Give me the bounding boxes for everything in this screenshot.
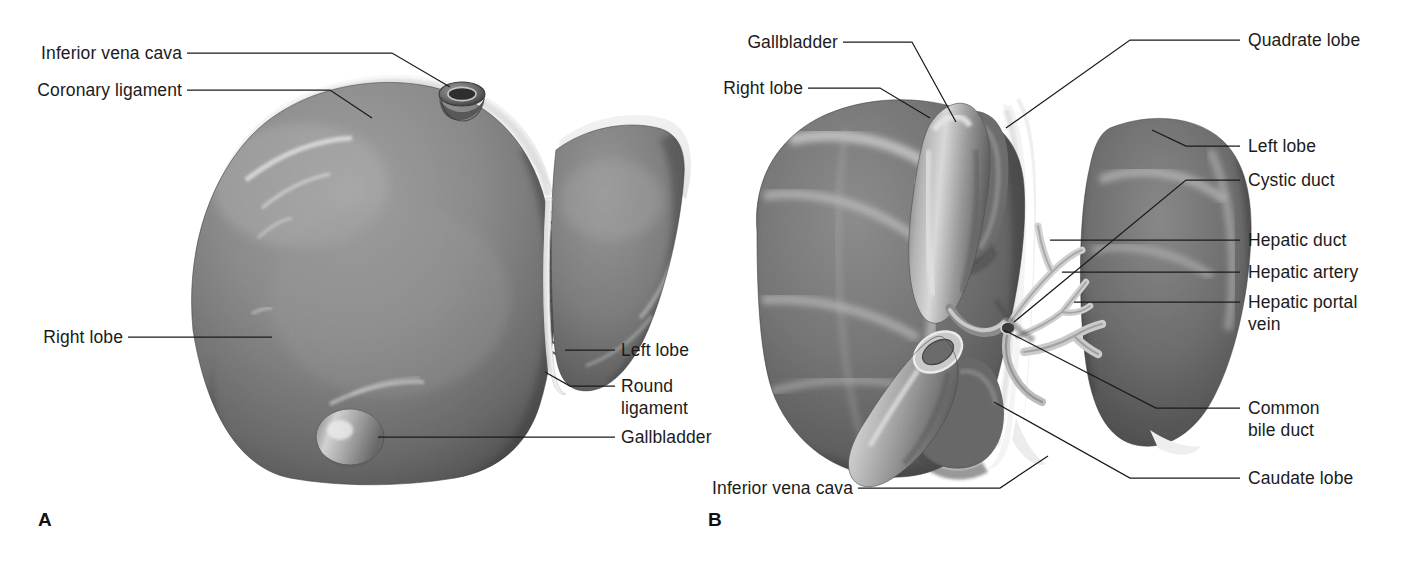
label-hepatic-duct-b: Hepatic duct [1248, 229, 1346, 251]
label-hepatic-portal-vein-b: Hepatic portal vein [1248, 291, 1357, 336]
label-inferior-vena-cava-a: Inferior vena cava [0, 42, 182, 64]
label-round-ligament-a: Round ligament [621, 375, 688, 420]
label-inferior-vena-cava-b: Inferior vena cava [610, 477, 853, 499]
label-gallbladder-b: Gallbladder [610, 31, 838, 53]
liver-anatomy-figure: Inferior vena cava Coronary ligament Rig… [0, 0, 1421, 561]
label-hepatic-artery-b: Hepatic artery [1248, 261, 1358, 283]
label-left-lobe-b: Left lobe [1248, 135, 1316, 157]
leader-quadrate-lobe-b [1006, 40, 1240, 128]
panel-marker-b: B [708, 509, 722, 531]
label-quadrate-lobe-b: Quadrate lobe [1248, 29, 1360, 51]
label-coronary-ligament-a: Coronary ligament [0, 79, 182, 101]
label-gallbladder-a: Gallbladder [621, 426, 712, 448]
label-left-lobe-a: Left lobe [621, 339, 689, 361]
label-cystic-duct-b: Cystic duct [1248, 169, 1335, 191]
label-right-lobe-b: Right lobe [610, 77, 803, 99]
label-common-bile-duct-b: Common bile duct [1248, 397, 1320, 442]
panel-marker-a: A [38, 509, 52, 531]
panel-b-illustration [740, 40, 1270, 495]
label-caudate-lobe-b: Caudate lobe [1248, 467, 1353, 489]
label-right-lobe-a: Right lobe [0, 326, 123, 348]
